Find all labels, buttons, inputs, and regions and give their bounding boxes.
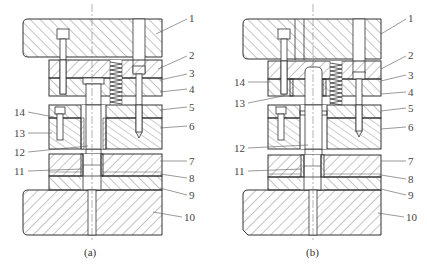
screw-shank-b bbox=[278, 114, 284, 140]
insert-14-left-b bbox=[290, 79, 293, 96]
caption-b: (b) bbox=[306, 246, 319, 259]
punch-head-a bbox=[83, 78, 104, 84]
svg-text:12: 12 bbox=[14, 146, 25, 158]
plate-7-die bbox=[49, 154, 162, 176]
svg-text:1: 1 bbox=[408, 12, 414, 24]
svg-text:2: 2 bbox=[408, 49, 414, 61]
svg-text:3: 3 bbox=[189, 67, 195, 79]
svg-text:11: 11 bbox=[234, 165, 245, 177]
svg-text:6: 6 bbox=[408, 121, 414, 133]
labels-right-b: 1 2 3 4 5 6 7 8 9 10 bbox=[378, 12, 418, 223]
svg-text:12: 12 bbox=[234, 142, 245, 154]
svg-text:9: 9 bbox=[189, 189, 195, 201]
svg-text:1: 1 bbox=[189, 12, 195, 24]
svg-text:10: 10 bbox=[406, 211, 418, 223]
bolt-shank-overlay bbox=[60, 60, 66, 94]
bolt-head-left bbox=[57, 29, 69, 39]
svg-text:2: 2 bbox=[189, 49, 195, 61]
svg-text:8: 8 bbox=[189, 172, 195, 184]
spring-4 bbox=[110, 60, 122, 105]
svg-text:8: 8 bbox=[408, 173, 414, 185]
svg-text:5: 5 bbox=[189, 101, 195, 113]
svg-text:13: 13 bbox=[234, 97, 246, 109]
svg-text:7: 7 bbox=[189, 155, 195, 167]
screw-shank-13-a bbox=[57, 114, 63, 140]
subfigure-b: 1 2 3 4 5 6 7 8 9 10 14 13 12 11 (b) bbox=[234, 4, 418, 259]
svg-text:11: 11 bbox=[14, 165, 25, 177]
spring-4-b bbox=[330, 61, 342, 105]
caption-a: (a) bbox=[84, 246, 97, 259]
insert-14-right-b bbox=[323, 79, 326, 96]
svg-text:4: 4 bbox=[189, 83, 195, 95]
svg-text:5: 5 bbox=[408, 102, 414, 114]
screw-head-b bbox=[276, 107, 286, 114]
die-insert-11-left-b bbox=[301, 155, 304, 177]
svg-text:3: 3 bbox=[408, 69, 414, 81]
pin-head-right-b bbox=[353, 72, 365, 79]
plate-7-die-b bbox=[268, 155, 381, 177]
svg-text:14: 14 bbox=[234, 76, 246, 88]
die-insert-11-right-b bbox=[321, 155, 324, 177]
screw-head-14-a bbox=[55, 107, 65, 114]
bolt-head-left-b bbox=[278, 29, 290, 39]
subfigure-a: 1 2 3 4 5 6 7 8 9 10 14 13 12 11 (a) bbox=[14, 4, 196, 259]
svg-text:4: 4 bbox=[408, 86, 414, 98]
svg-text:9: 9 bbox=[408, 189, 414, 201]
svg-text:13: 13 bbox=[14, 127, 26, 139]
die-assembly-drawing: 1 2 3 4 5 6 7 8 9 10 14 13 12 11 (a) bbox=[0, 0, 427, 272]
svg-text:10: 10 bbox=[184, 211, 196, 223]
svg-text:14: 14 bbox=[14, 106, 26, 118]
plate-9-die-backing-b bbox=[268, 177, 381, 190]
svg-text:6: 6 bbox=[189, 120, 195, 132]
punch-12-a-mid bbox=[86, 105, 101, 149]
plate-9-die-backing bbox=[49, 176, 162, 190]
svg-text:7: 7 bbox=[408, 155, 414, 167]
